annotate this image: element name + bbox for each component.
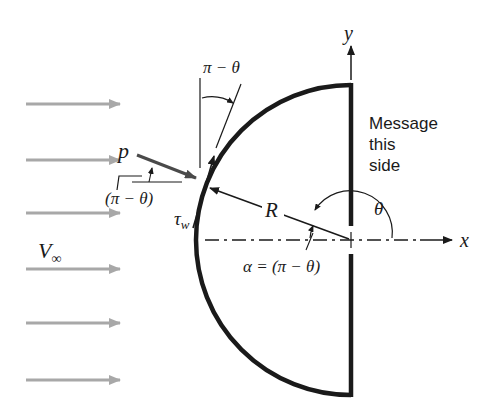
freestream-label: V∞ — [38, 238, 61, 266]
x-axis: x — [205, 229, 469, 251]
y-axis-label: y — [342, 22, 353, 45]
svg-text:side: side — [369, 156, 400, 175]
theta-label: θ — [374, 198, 383, 219]
curved-surface — [196, 85, 351, 395]
radius-label: R — [264, 198, 278, 222]
hemicylinder-flow-diagram: V∞ y x Message this side θ R α = (π − — [0, 0, 494, 418]
radius-line: R — [210, 188, 349, 239]
y-axis: y — [342, 22, 353, 80]
hemicylinder-body — [196, 83, 351, 397]
tangent-angle: π − θ — [200, 58, 241, 168]
pressure-angle: (π − θ) — [105, 168, 182, 208]
message-side-label: Message this side — [369, 114, 438, 175]
x-axis-label: x — [459, 229, 469, 251]
shear-label: τw — [174, 208, 190, 232]
svg-text:this: this — [369, 135, 395, 154]
alpha-angle: α = (π − θ) — [243, 226, 320, 276]
pressure-force: p — [116, 138, 196, 178]
shear-stress: τw — [174, 156, 214, 232]
pi-minus-theta-paren: (π − θ) — [105, 189, 154, 208]
pressure-label: p — [116, 138, 129, 163]
svg-text:Message: Message — [369, 114, 438, 133]
pi-minus-theta-top: π − θ — [203, 58, 240, 77]
alpha-label: α = (π − θ) — [243, 257, 320, 276]
